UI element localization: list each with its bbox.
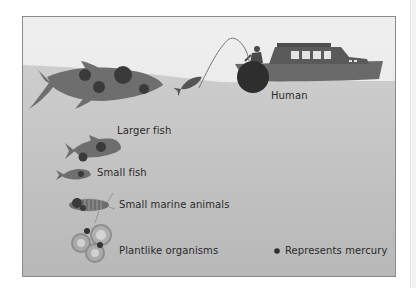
mercury-legend-dot: [274, 248, 280, 254]
label-small-fish: Small fish: [97, 167, 147, 178]
diagram-frame: Human Larger fish Small fish Small marin…: [22, 16, 396, 277]
label-plantlike-organisms: Plantlike organisms: [119, 245, 218, 256]
food-chain-illustration: [23, 17, 395, 276]
label-small-marine-animals: Small marine animals: [119, 199, 229, 210]
page-edge-strip: [410, 0, 416, 288]
label-human: Human: [271, 90, 308, 101]
human-mercury-dot: [237, 61, 269, 93]
legend-mercury-label: Represents mercury: [285, 245, 388, 256]
label-larger-fish: Larger fish: [117, 125, 171, 136]
